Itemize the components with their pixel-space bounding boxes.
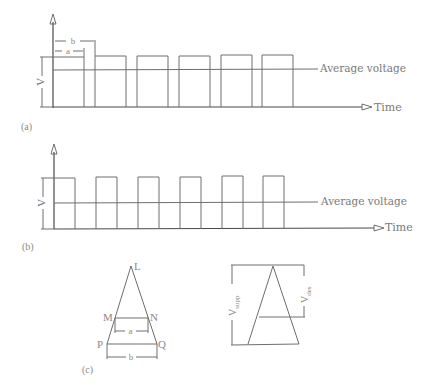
dim-b-label-c: b <box>129 352 134 362</box>
caption-a: (a) <box>21 121 32 133</box>
panel-b: V Average voltage Time (b) <box>22 144 413 253</box>
time-label-b: Time <box>385 221 413 234</box>
dim-a-label-c: a <box>129 326 133 336</box>
v-des-label: Vdes <box>299 286 313 303</box>
average-line-a <box>53 69 318 70</box>
v-label-a: V <box>35 78 46 87</box>
point-p: P <box>97 338 103 350</box>
point-q: Q <box>158 338 166 350</box>
caption-b: (b) <box>22 241 34 253</box>
point-m: M <box>103 311 113 323</box>
svg-text:Vdes: Vdes <box>299 286 313 303</box>
time-axis-b <box>54 228 374 229</box>
pwm-diagram: V a b Average voltage Time (a) <box>0 0 427 385</box>
v-label-b: V <box>36 199 47 208</box>
dim-a-label: a <box>66 46 70 56</box>
time-label-a: Time <box>374 101 402 114</box>
point-l: L <box>134 260 141 272</box>
average-voltage-label-a: Average voltage <box>319 62 406 74</box>
point-n: N <box>150 311 158 323</box>
supply-desired-diagram: Vsupp Vdes <box>227 265 313 345</box>
caption-c: (c) <box>82 364 93 376</box>
panel-c: a b L M N P Q (c) Vsupp Vd <box>82 260 313 376</box>
pulse-train-a <box>53 55 293 107</box>
panel-a: V a b Average voltage Time (a) <box>21 14 406 133</box>
arrow-right-icon <box>362 104 372 110</box>
v-supp-label: Vsupp <box>227 295 241 316</box>
average-line-b <box>54 202 318 203</box>
svg-text:Vsupp: Vsupp <box>227 295 241 316</box>
average-voltage-label-b: Average voltage <box>320 195 407 207</box>
arrow-right-icon <box>374 225 384 231</box>
dim-b-label: b <box>71 36 76 46</box>
